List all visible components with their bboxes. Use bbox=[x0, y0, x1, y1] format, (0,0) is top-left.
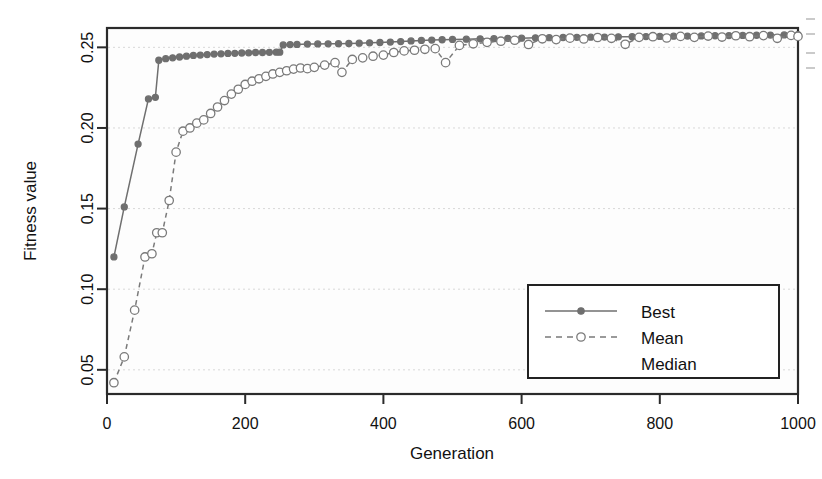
data-point bbox=[183, 53, 189, 59]
data-point bbox=[524, 40, 532, 48]
data-point bbox=[369, 52, 377, 60]
fitness-convergence-chart: 02004006008001000 0.050.100.150.200.25 G… bbox=[0, 0, 822, 479]
data-point bbox=[304, 41, 310, 47]
legend-label-mean[interactable]: Mean bbox=[641, 329, 684, 348]
data-point bbox=[463, 36, 469, 42]
data-point bbox=[759, 31, 767, 39]
data-point bbox=[338, 68, 346, 76]
data-point bbox=[111, 254, 117, 260]
data-point bbox=[410, 46, 418, 54]
data-point bbox=[253, 50, 259, 56]
data-point bbox=[593, 33, 601, 41]
data-point bbox=[277, 49, 283, 55]
data-point bbox=[649, 33, 657, 41]
data-point bbox=[450, 36, 456, 42]
data-point bbox=[439, 37, 445, 43]
data-point bbox=[170, 55, 176, 61]
data-point bbox=[120, 353, 128, 361]
data-point bbox=[676, 32, 684, 40]
data-point bbox=[135, 141, 141, 147]
data-point bbox=[121, 204, 127, 210]
data-point bbox=[615, 34, 621, 40]
data-point bbox=[483, 38, 491, 46]
data-point bbox=[635, 33, 643, 41]
data-point bbox=[477, 36, 483, 42]
data-point bbox=[398, 39, 404, 45]
data-point bbox=[145, 96, 151, 102]
data-point bbox=[172, 148, 180, 156]
x-tick-label: 800 bbox=[646, 415, 673, 432]
data-point bbox=[287, 42, 293, 48]
scan-artifact bbox=[806, 67, 815, 69]
data-point bbox=[148, 250, 156, 258]
legend-marker-best bbox=[578, 308, 584, 314]
data-point bbox=[225, 50, 231, 56]
x-axis-title: Generation bbox=[410, 444, 494, 463]
data-point bbox=[663, 34, 671, 42]
x-tick-label: 0 bbox=[103, 415, 112, 432]
data-point bbox=[390, 48, 398, 56]
data-point bbox=[266, 49, 272, 55]
data-point bbox=[773, 34, 781, 42]
y-tick-label: 0.05 bbox=[79, 354, 96, 385]
data-point bbox=[156, 57, 162, 63]
data-point bbox=[732, 32, 740, 40]
data-point bbox=[400, 47, 408, 55]
data-point bbox=[367, 40, 373, 46]
data-point bbox=[431, 44, 439, 52]
data-point bbox=[218, 51, 224, 57]
data-point bbox=[152, 94, 158, 100]
data-point bbox=[580, 35, 588, 43]
data-point bbox=[621, 40, 629, 48]
data-point bbox=[469, 40, 477, 48]
legend[interactable]: BestMeanMedian bbox=[528, 285, 779, 378]
data-point bbox=[358, 54, 366, 62]
data-point bbox=[335, 41, 341, 47]
data-point bbox=[239, 50, 245, 56]
data-point bbox=[200, 116, 208, 124]
data-point bbox=[387, 39, 393, 45]
scan-artifact bbox=[806, 18, 815, 20]
data-point bbox=[379, 51, 387, 59]
data-point bbox=[259, 50, 265, 56]
x-tick-label: 1000 bbox=[780, 415, 816, 432]
data-point bbox=[158, 229, 166, 237]
y-tick-label: 0.25 bbox=[79, 32, 96, 63]
data-point bbox=[745, 33, 753, 41]
data-point bbox=[163, 56, 169, 62]
data-point bbox=[629, 34, 635, 40]
data-point bbox=[348, 55, 356, 63]
x-axis: 02004006008001000 bbox=[103, 394, 816, 432]
data-point bbox=[280, 42, 286, 48]
data-point bbox=[331, 58, 339, 66]
y-tick-label: 0.20 bbox=[79, 112, 96, 143]
data-point bbox=[213, 103, 221, 111]
legend-label-median[interactable]: Median bbox=[641, 355, 697, 374]
data-point bbox=[418, 37, 424, 43]
scan-artifact bbox=[806, 52, 815, 54]
data-point bbox=[455, 41, 463, 49]
data-point bbox=[220, 96, 228, 104]
data-point bbox=[246, 50, 252, 56]
data-point bbox=[110, 379, 118, 387]
data-point bbox=[204, 52, 210, 58]
data-point bbox=[497, 37, 505, 45]
legend-marker-mean bbox=[577, 333, 585, 341]
data-point bbox=[566, 34, 574, 42]
data-point bbox=[294, 41, 300, 47]
x-tick-label: 600 bbox=[508, 415, 535, 432]
data-point bbox=[794, 32, 802, 40]
data-point bbox=[325, 41, 331, 47]
data-point bbox=[177, 54, 183, 60]
legend-label-best[interactable]: Best bbox=[641, 303, 675, 322]
data-point bbox=[211, 51, 217, 57]
data-point bbox=[165, 196, 173, 204]
data-point bbox=[310, 63, 318, 71]
data-point bbox=[429, 37, 435, 43]
data-point bbox=[421, 45, 429, 53]
y-axis: 0.050.100.150.200.25 bbox=[79, 32, 107, 386]
data-point bbox=[232, 50, 238, 56]
data-point bbox=[377, 40, 383, 46]
data-point bbox=[704, 32, 712, 40]
data-point bbox=[356, 40, 362, 46]
